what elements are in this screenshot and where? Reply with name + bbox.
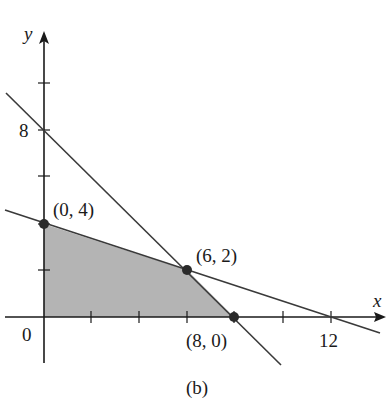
lp-graph: y x 8 0 12 (0, 4) (6, 2) (8, 0) (b): [0, 0, 392, 416]
y-axis-label: y: [22, 23, 33, 44]
figure-caption: (b): [186, 377, 208, 399]
point-6-2: [182, 265, 192, 275]
y-tick-label-8: 8: [19, 120, 29, 141]
feasible-region: [44, 224, 234, 317]
point-0-4: [39, 219, 49, 229]
point-label-8-0: (8, 0): [186, 330, 227, 352]
point-label-6-2: (6, 2): [196, 245, 237, 267]
x-axis-label: x: [372, 290, 382, 311]
point-label-0-4: (0, 4): [53, 199, 94, 221]
x-tick-label-12: 12: [319, 330, 338, 351]
point-8-0: [229, 312, 239, 322]
origin-label: 0: [22, 324, 32, 345]
